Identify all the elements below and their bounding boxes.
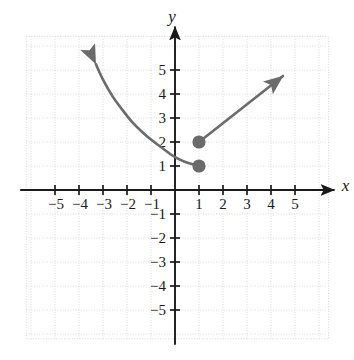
x-tick-label: 4 (267, 196, 275, 212)
plot-background (26, 36, 328, 338)
x-tick-label: 2 (219, 196, 227, 212)
y-tick-label: −1 (150, 206, 166, 222)
closed-endpoint-dot (194, 137, 205, 148)
x-tick-label: 1 (195, 196, 203, 212)
coordinate-plane: −5−4−3−2−11234554321−1−2−3−4−5xy (0, 0, 354, 360)
x-tick-label: −5 (48, 196, 64, 212)
y-tick-label: 1 (159, 158, 167, 174)
y-tick-label: 5 (159, 62, 167, 78)
x-tick-label: 3 (243, 196, 251, 212)
y-tick-label: −3 (150, 254, 166, 270)
y-tick-label: 3 (159, 110, 167, 126)
x-axis-label: x (341, 176, 350, 195)
x-tick-label: −2 (120, 196, 136, 212)
y-tick-label: 4 (159, 86, 167, 102)
y-tick-label: −5 (150, 302, 166, 318)
x-tick-label: 5 (291, 196, 299, 212)
y-tick-label: −4 (150, 278, 166, 294)
y-axis-label: y (166, 7, 176, 26)
y-tick-label: −2 (150, 230, 166, 246)
graph-figure: −5−4−3−2−11234554321−1−2−3−4−5xy (0, 0, 354, 360)
x-tick-label: −4 (72, 196, 88, 212)
closed-endpoint-dot (194, 161, 205, 172)
x-tick-label: −3 (96, 196, 112, 212)
